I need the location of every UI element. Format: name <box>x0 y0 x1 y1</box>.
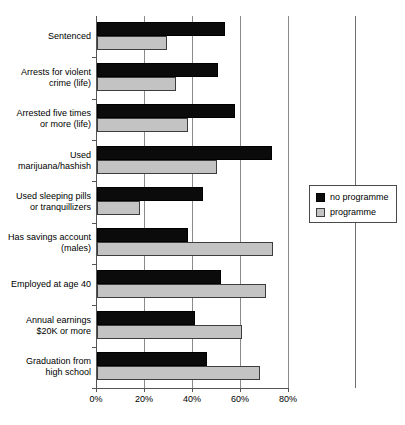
bar-no-programme <box>97 63 218 77</box>
bar-no-programme <box>97 146 272 160</box>
x-axis-tick-label: 60% <box>220 394 260 405</box>
bar-programme <box>97 242 273 256</box>
bar-programme <box>97 36 167 50</box>
legend-item-no-programme: no programme <box>316 191 389 203</box>
chart-legend: no programme programme <box>309 185 397 223</box>
bar-programme <box>97 284 266 298</box>
bar-programme <box>97 160 217 174</box>
gray-square-swatch <box>316 208 325 217</box>
category-label: Annual earnings $20K or more <box>26 315 91 337</box>
category-label: Employed at age 40 <box>11 279 91 290</box>
legend-label-programme: programme <box>330 207 376 217</box>
gridline-80 <box>288 16 289 388</box>
category-label: Arrests for violent crime (life) <box>21 67 91 89</box>
x-axis-tick-label: 80% <box>268 394 308 405</box>
legend-item-programme: programme <box>316 206 376 218</box>
bar-no-programme <box>97 352 207 366</box>
bar-no-programme <box>97 187 203 201</box>
black-square-swatch <box>316 193 325 202</box>
bar-chart: SentencedArrests for violent crime (life… <box>0 0 405 425</box>
bar-no-programme <box>97 270 221 284</box>
bar-programme <box>97 201 140 215</box>
x-axis-tick-label: 20% <box>124 394 164 405</box>
bar-no-programme <box>97 228 188 242</box>
category-label: Arrested five times or more (life) <box>16 108 91 130</box>
x-axis-line <box>96 388 289 389</box>
category-label: Has savings account (males) <box>8 232 91 254</box>
bar-programme <box>97 325 242 339</box>
x-axis-tick-label: 0% <box>76 394 116 405</box>
bar-no-programme <box>97 311 195 325</box>
category-label: Used sleeping pills or tranquillizers <box>16 191 91 213</box>
bar-no-programme <box>97 104 235 118</box>
bar-programme <box>97 118 188 132</box>
category-label: Graduation from high school <box>26 356 91 378</box>
bar-no-programme <box>97 22 225 36</box>
category-label: Sentenced <box>48 31 91 42</box>
legend-label-no-programme: no programme <box>330 192 389 202</box>
bar-programme <box>97 366 260 380</box>
bar-programme <box>97 77 176 91</box>
category-label: Used marijuana/hashish <box>18 150 91 172</box>
x-axis-tick-label: 40% <box>172 394 212 405</box>
